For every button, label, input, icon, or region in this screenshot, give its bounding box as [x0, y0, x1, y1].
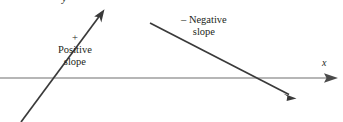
- slope-diagram: y x + Positive slope – Negative slope: [0, 0, 343, 122]
- positive-slope-subtitle: slope: [58, 56, 92, 68]
- negative-slope-arrowhead-icon: [283, 94, 296, 101]
- y-axis-label: y: [62, 0, 66, 4]
- negative-slope-label: – Negative slope: [181, 14, 227, 38]
- x-axis-label: x: [322, 57, 326, 68]
- positive-slope-label: + Positive slope: [58, 32, 92, 67]
- negative-slope-line1: – Negative: [181, 14, 227, 26]
- negative-slope-subtitle: slope: [181, 26, 227, 38]
- positive-sign: +: [58, 32, 92, 44]
- negative-sign: –: [181, 14, 186, 25]
- negative-slope-title: Negative: [189, 14, 227, 25]
- diagram-canvas: [0, 0, 343, 122]
- positive-slope-title: Positive: [58, 44, 92, 56]
